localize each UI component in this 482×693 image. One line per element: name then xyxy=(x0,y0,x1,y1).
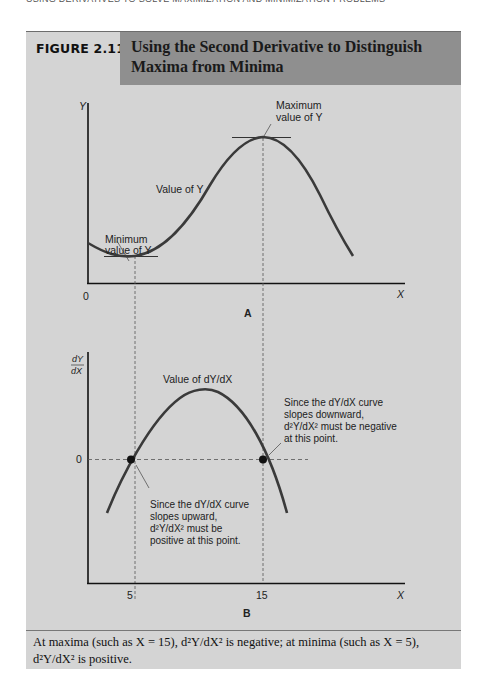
tick-15: 15 xyxy=(256,589,268,601)
panel-a-letter: A xyxy=(244,307,252,319)
tick-5: 5 xyxy=(127,589,133,601)
caption-line-1: At maxima (such as X = 15), d²Y/dX² is n… xyxy=(33,634,453,651)
note-down-leader xyxy=(269,443,281,455)
y-curve-label: Value of Y xyxy=(156,183,203,195)
caption-line-2: d²Y/dX² is positive. xyxy=(33,651,453,668)
dydx-curve-label: Value of dY/dX xyxy=(163,373,232,385)
panel-a-origin: 0 xyxy=(83,290,89,302)
note-up-line2: slopes upward, xyxy=(150,511,217,522)
panel-b-x-label: X xyxy=(396,589,405,601)
note-down-line3: d²Y/dX² must be negative xyxy=(284,421,397,432)
note-up-leader xyxy=(136,465,149,488)
point-x5 xyxy=(127,456,135,464)
panel-b-y-label-bottom: dX xyxy=(71,366,83,376)
panel-b: dY dX 0 Value of dY/dX Since the dY/dX c… xyxy=(71,352,405,619)
max-label-line2: value of Y xyxy=(276,111,323,123)
panel-a-y-label: Y xyxy=(79,100,87,112)
point-x15 xyxy=(259,456,267,464)
panel-a-x-label: X xyxy=(396,288,405,300)
figure-caption: At maxima (such as X = 15), d²Y/dX² is n… xyxy=(33,634,453,668)
max-leader xyxy=(264,124,271,136)
min-label-line2: value of Y xyxy=(105,244,152,256)
figure-chart: Y X 0 Maximum value of Y Value of Y Mini… xyxy=(0,0,482,693)
note-down-line1: Since the dY/dX curve xyxy=(284,397,383,408)
zero-tick: 0 xyxy=(76,453,82,465)
note-down-line2: slopes downward, xyxy=(284,409,364,420)
note-down-line4: at this point. xyxy=(284,433,338,444)
panel-a: Y X 0 Maximum value of Y Value of Y Mini… xyxy=(79,99,405,600)
panel-b-y-label-top: dY xyxy=(72,354,84,364)
panel-b-letter: B xyxy=(243,607,251,619)
note-up-line3: d²Y/dX² must be xyxy=(150,523,223,534)
dydx-curve xyxy=(107,389,287,513)
note-up-line1: Since the dY/dX curve xyxy=(150,499,249,510)
caption-rule xyxy=(26,630,461,631)
note-up-line4: positive at this point. xyxy=(150,535,241,546)
max-label-line1: Maximum xyxy=(276,99,322,111)
